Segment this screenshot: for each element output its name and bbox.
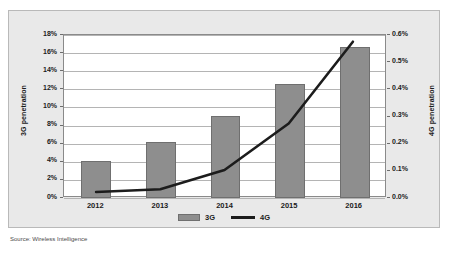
y-axis-right-tickmark bbox=[387, 197, 390, 198]
y-axis-left-tick-label: 6% bbox=[23, 138, 57, 145]
y-axis-left-tick-label: 4% bbox=[23, 156, 57, 163]
bar bbox=[340, 47, 370, 198]
gridline bbox=[64, 53, 385, 54]
y-axis-left-tickmark bbox=[60, 197, 63, 198]
y-axis-left-tick-label: 0% bbox=[23, 193, 57, 200]
bar bbox=[81, 161, 111, 198]
y-axis-left-tick-label: 2% bbox=[23, 174, 57, 181]
bar bbox=[211, 116, 241, 198]
y-axis-right-tickmark bbox=[387, 116, 390, 117]
bar bbox=[146, 142, 176, 198]
legend-label-4g: 4G bbox=[260, 213, 270, 222]
y-axis-left-tick-label: 16% bbox=[23, 48, 57, 55]
x-axis-tick-label: 2013 bbox=[135, 201, 185, 210]
y-axis-right-tickmark bbox=[387, 61, 390, 62]
y-axis-right-tickmark bbox=[387, 88, 390, 89]
y-axis-right-tick-label: 0.0% bbox=[392, 193, 426, 200]
y-axis-right-tick-label: 0.5% bbox=[392, 57, 426, 64]
chart-frame: 3G penetration 4G penetration 0%2%4%6%8%… bbox=[8, 10, 440, 228]
legend-label-3g: 3G bbox=[205, 213, 215, 222]
y-axis-right-tick-label: 0.6% bbox=[392, 30, 426, 37]
y-axis-right-tickmark bbox=[387, 34, 390, 35]
gridline bbox=[64, 198, 385, 199]
bar bbox=[275, 84, 305, 198]
y-axis-left-tick-label: 18% bbox=[23, 30, 57, 37]
gridline bbox=[64, 107, 385, 108]
y-axis-left-tick-label: 14% bbox=[23, 66, 57, 73]
y-axis-left-tick-label: 8% bbox=[23, 120, 57, 127]
y-axis-right-tickmark bbox=[387, 170, 390, 171]
gridline bbox=[64, 89, 385, 90]
x-axis-tick-label: 2015 bbox=[264, 201, 314, 210]
legend-item-3g: 3G bbox=[178, 213, 215, 222]
y-axis-right-tick-label: 0.4% bbox=[392, 84, 426, 91]
x-axis-tick-label: 2016 bbox=[329, 201, 379, 210]
y-axis-left-tick-label: 10% bbox=[23, 102, 57, 109]
y-axis-right-tick-label: 0.2% bbox=[392, 138, 426, 145]
source-note: Source: Wireless Intelligence bbox=[10, 236, 87, 242]
y-axis-left-tick-label: 12% bbox=[23, 84, 57, 91]
gridline bbox=[64, 35, 385, 36]
legend-bar-swatch-icon bbox=[178, 214, 200, 221]
y-axis-right-tickmark bbox=[387, 143, 390, 144]
y-axis-right-title: 4G penetration bbox=[428, 71, 435, 151]
x-axis-tick-label: 2014 bbox=[200, 201, 250, 210]
x-axis-tick-label: 2012 bbox=[70, 201, 120, 210]
chart-legend: 3G 4G bbox=[9, 213, 439, 222]
legend-line-swatch-icon bbox=[231, 216, 255, 219]
plot-area bbox=[63, 34, 386, 197]
legend-item-4g: 4G bbox=[231, 213, 270, 222]
y-axis-right-tick-label: 0.3% bbox=[392, 111, 426, 118]
gridline bbox=[64, 71, 385, 72]
y-axis-right-tick-label: 0.1% bbox=[392, 165, 426, 172]
